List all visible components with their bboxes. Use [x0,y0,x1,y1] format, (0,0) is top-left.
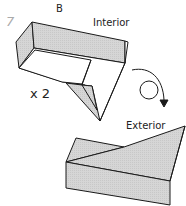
label-exterior: Exterior [126,121,165,131]
label-b: B [56,4,63,14]
label-repeat: x 2 [30,87,50,100]
interior-model [16,22,128,121]
exterior-model [66,126,185,205]
step-number: 7 [6,14,14,29]
label-interior: Interior [93,18,129,28]
turn-over-arrow-icon [132,69,168,107]
fold-diagram [0,0,186,206]
